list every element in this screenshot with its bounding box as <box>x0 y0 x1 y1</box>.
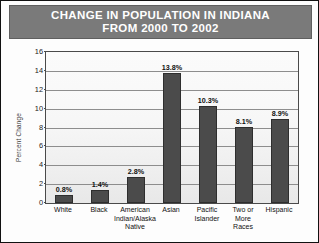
chart-title-line-1: CHANGE IN POPULATION IN INDIANA <box>51 9 270 23</box>
x-axis-labels: WhiteBlackAmerican Indian/Alaska NativeA… <box>45 206 299 242</box>
bar <box>271 119 289 203</box>
y-axis-tick-label: 4 <box>27 160 43 169</box>
y-axis-tick-label: 2 <box>27 179 43 188</box>
chart-title-line-2: FROM 2000 TO 2002 <box>102 22 218 36</box>
y-axis-tick-label: 10 <box>27 103 43 112</box>
y-axis-tick-label: 12 <box>27 84 43 93</box>
bar <box>55 195 73 203</box>
bar <box>91 190 109 203</box>
bar-value-label: 8.9% <box>272 109 288 118</box>
bar <box>163 73 181 203</box>
y-axis-tick-label: 16 <box>27 47 43 56</box>
bar-value-label: 0.8% <box>56 185 72 194</box>
y-axis-label-text: Percent Change <box>15 113 22 162</box>
chart-title-banner: CHANGE IN POPULATION IN INDIANA FROM 200… <box>9 5 312 39</box>
y-axis-tick-label: 8 <box>27 122 43 131</box>
bar <box>127 177 145 203</box>
bar-value-label: 8.1% <box>236 117 252 126</box>
bar-value-label: 2.8% <box>128 167 144 176</box>
bar <box>235 127 253 203</box>
y-axis-ticks: 0246810121416 <box>23 51 43 204</box>
plot-area: 0.8%1.4%2.8%13.8%10.3%8.1%8.9% <box>45 51 299 204</box>
bar-value-label: 1.4% <box>92 180 108 189</box>
bar <box>199 106 217 203</box>
bar-value-label: 10.3% <box>198 96 218 105</box>
y-axis-tick-label: 6 <box>27 141 43 150</box>
bar-value-label: 13.8% <box>162 63 182 72</box>
x-axis-tick-label: Hispanic <box>252 206 306 215</box>
y-axis-tick-label: 14 <box>27 65 43 74</box>
chart-figure: CHANGE IN POPULATION IN INDIANA FROM 200… <box>0 0 319 243</box>
